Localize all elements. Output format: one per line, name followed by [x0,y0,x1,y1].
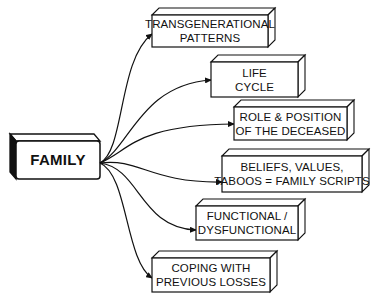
role-position-line-1: ROLE & POSITION [240,110,342,124]
arrow-to-functional [100,163,196,230]
role-position-line-2: OF THE DECEASED [236,124,346,138]
functional-line-1: FUNCTIONAL / [207,209,288,223]
arrow-to-transgenerational [100,34,152,163]
transgenerational-line-2: PATTERNS [180,31,240,45]
coping-line-2: PREVIOUS LOSSES [156,275,266,289]
family-label: FAMILY [16,141,100,179]
transgenerational-line-1: TRANSGENERATIONAL [145,17,275,31]
life-cycle-line-1: LIFE [242,66,267,80]
arrow-to-life-cycle [100,80,211,163]
life-cycle-line-2: CYCLE [235,80,274,94]
arrow-to-coping [100,163,152,278]
beliefs-values-label: BELIEFS, VALUES, TABOOS = FAMILY SCRIPTS [222,156,362,192]
beliefs-values-line-1: BELIEFS, VALUES, [240,160,343,174]
coping-line-1: COPING WITH [171,261,250,275]
coping-label: COPING WITH PREVIOUS LOSSES [152,258,270,292]
beliefs-values-line-2: TABOOS = FAMILY SCRIPTS [214,174,369,188]
transgenerational-label: TRANSGENERATIONAL PATTERNS [152,15,268,47]
family-text: FAMILY [30,153,85,167]
functional-label: FUNCTIONAL / DYSFUNCTIONAL [196,206,298,240]
role-position-label: ROLE & POSITION OF THE DECEASED [234,107,347,140]
life-cycle-label: LIFE CYCLE [211,62,298,97]
functional-line-2: DYSFUNCTIONAL [198,223,296,237]
arrow-to-beliefs [100,162,222,182]
